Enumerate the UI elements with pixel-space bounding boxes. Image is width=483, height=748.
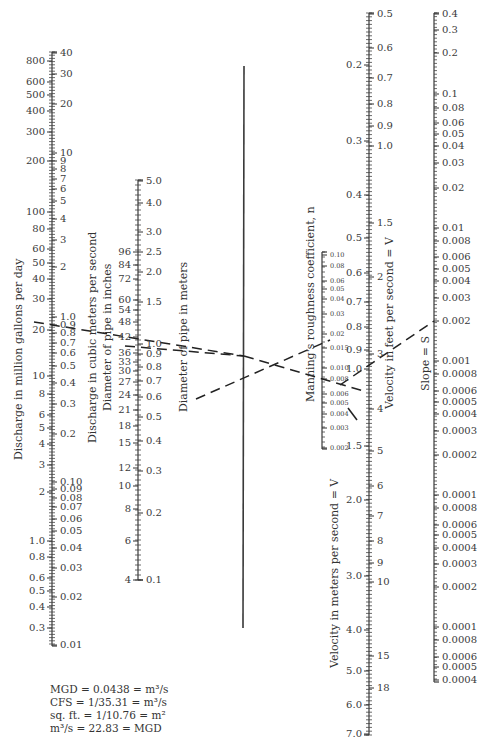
scale-label-vel_mps: 5.0 [346,666,362,676]
scale-label-mgd: 80 [32,224,45,234]
scale-label-mgd: 300 [26,127,45,137]
scale-label-slope: 0.04 [442,141,464,151]
scale-label-pipe_in: 10 [118,481,131,491]
scale-label-vel_mps: 7.0 [346,729,362,739]
scale-label-pipe_in: 8 [125,504,131,514]
scale-label-manning: 0.005 [330,400,349,407]
scale-label-pipe_in: 96 [118,247,131,257]
scale-label-vel_mps: 0.6 [346,268,362,278]
nomograph-canvas [0,0,483,748]
title-discharge-mgd: Discharge in million gallons per day [12,258,25,460]
scale-label-slope: 0.004 [442,276,471,286]
scale-label-vel_mps: 0.3 [346,136,362,146]
scale-label-slope: 0.2 [442,48,458,58]
scale-label-slope: 0.0006 [442,386,477,396]
scale-label-manning: 0.08 [330,263,344,270]
scale-label-pipe_m: 0.8 [146,362,162,372]
scale-label-slope: 0.003 [442,293,471,303]
scale-label-slope: 0.0008 [442,369,477,379]
scale-label-slope: 0.001 [442,356,471,366]
scale-label-mgd: 200 [26,156,45,166]
scale-label-vel_mps: 0.8 [346,322,362,332]
scale-label-cms: 3 [60,235,66,245]
scale-label-pipe_in: 84 [118,260,131,270]
scale-label-vel_mps: 1.0 [346,364,362,374]
scale-label-slope: 0.0003 [442,426,477,436]
scale-label-cms: 4 [60,214,66,224]
scale-label-mgd: 800 [26,56,45,66]
scale-label-vel_mps: 1.5 [346,441,362,451]
scale-label-vel_fps: 10 [377,577,390,587]
scale-label-cms: 0.5 [60,361,76,371]
scale-label-pipe_in: 42 [118,332,131,342]
scale-label-mgd: 20 [32,325,45,335]
scale-label-vel_mps: 3.0 [346,571,362,581]
scale-label-slope: 0.08 [442,103,464,113]
solution-line-velocity-short [348,408,357,420]
scale-label-slope: 0.005 [442,264,471,274]
scale-label-manning: 0.05 [330,286,344,293]
scale-label-cms: 0.4 [60,378,76,388]
scale-label-slope: 0.0004 [442,409,477,419]
scale-label-pipe_m: 0.2 [146,508,162,518]
scale-label-slope: 0.05 [442,129,464,139]
scale-label-pipe_m: 2.5 [146,247,162,257]
scale-label-pipe_m: 4.0 [146,198,162,208]
scale-label-mgd: 5 [39,423,45,433]
scale-label-pipe_in: 27 [118,377,131,387]
scale-label-vel_mps: 0.2 [346,60,362,70]
scale-label-slope: 0.03 [442,158,464,168]
scale-label-pipe_m: 0.7 [146,376,162,386]
scale-label-vel_fps: 5 [377,446,383,456]
scale-label-manning: 0.06 [330,278,344,285]
note-sqft: sq. ft. = 1/10.76 = m² [50,709,168,722]
scale-label-slope: 0.0004 [442,675,477,685]
scale-label-pipe_m: 1.5 [146,297,162,307]
title-pipe-meters: Diameter of pipe in meters [177,262,190,412]
scale-label-pipe_m: 0.9 [146,349,162,359]
scale-label-mgd: 600 [26,77,45,87]
scale-label-vel_fps: 0.7 [377,73,393,83]
scale-label-pipe_m: 5.0 [146,176,162,186]
scale-label-cms: 0.6 [60,348,76,358]
scale-label-vel_fps: 1.5 [377,218,393,228]
scale-label-pipe_in: 18 [118,421,131,431]
scale-label-mgd: 0.4 [29,602,45,612]
scale-label-pipe_m: 3.0 [146,227,162,237]
scale-label-slope: 0.002 [442,316,471,326]
scale-label-slope: 0.008 [442,236,471,246]
scale-label-slope: 0.0002 [442,450,477,460]
title-velocity-mps: Velocity in meters per second = V [328,479,341,668]
scale-label-slope: 0.02 [442,183,464,193]
scale-label-pipe_m: 2.0 [146,267,162,277]
scale-label-cms: 0.3 [60,399,76,409]
scale-label-pipe_in: 24 [118,390,131,400]
scale-label-mgd: 30 [32,294,45,304]
scale-label-mgd: 0.6 [29,573,45,583]
scale-label-cms: 0.2 [60,429,76,439]
scale-label-mgd: 50 [32,258,45,268]
scale-label-cms: 5 [60,196,66,206]
scale-label-pipe_m: 0.5 [146,412,162,422]
scale-label-vel_mps: 0.7 [346,297,362,307]
scale-label-mgd: 6 [39,410,45,420]
scale-label-pipe_m: 0.6 [146,392,162,402]
scale-label-slope: 0.0008 [442,635,477,645]
scale-label-slope: 0.0002 [442,582,477,592]
scale-label-pipe_in: 30 [118,366,131,376]
scale-label-slope: 0.0005 [442,530,477,540]
title-velocity-fps: Velocity in feet per second = V [383,237,396,409]
scale-label-cms: 0.07 [60,502,82,512]
scale-label-vel_mps: 0.9 [346,345,362,355]
scale-label-manning: 0.04 [330,296,344,303]
scale-label-mgd: 2 [39,487,45,497]
note-mgd: MGD = 0.0438 = m³/s [50,683,168,696]
scale-label-cms: 30 [60,69,73,79]
scale-label-pipe_m: 0.1 [146,575,162,585]
scale-label-cms: 0.06 [60,514,82,524]
scale-label-pipe_in: 4 [125,575,131,585]
scale-label-slope: 0.0001 [442,490,477,500]
scale-label-cms: 20 [60,99,73,109]
scale-label-mgd: 40 [32,274,45,284]
scale-label-cms: 0.04 [60,543,82,553]
